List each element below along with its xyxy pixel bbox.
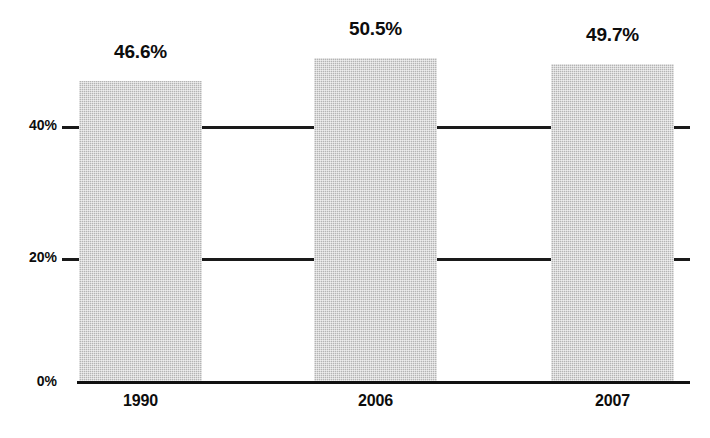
bar-2006[interactable] [314,58,437,381]
bar-value-2006: 50.5% [314,18,437,40]
bar-2007[interactable] [551,64,674,381]
bar-1990[interactable] [79,81,202,381]
bar-value-1990: 46.6% [79,41,202,63]
ytick-label-20-wrap: 20% [0,249,57,267]
ytick-label-40: 40% [29,117,57,133]
category-label-2007: 2007 [551,392,674,410]
plot-area: 40% 20% 0% 46.6% 50.5% 49.7% 1990 2006 2… [0,0,710,438]
ytick-label-20: 20% [29,249,57,265]
ytick-mark-40 [62,126,78,129]
bar-chart: 40% 20% 0% 46.6% 50.5% 49.7% 1990 2006 2… [0,0,710,438]
category-label-2006: 2006 [314,392,437,410]
ytick-mark-20 [62,258,78,261]
ytick-label-40-wrap: 40% [0,117,57,135]
category-label-1990: 1990 [79,392,202,410]
ytick-label-0-wrap: 0% [0,373,57,391]
x-axis-line [77,381,690,384]
ytick-label-0: 0% [37,373,57,389]
bar-value-2007: 49.7% [551,24,674,46]
